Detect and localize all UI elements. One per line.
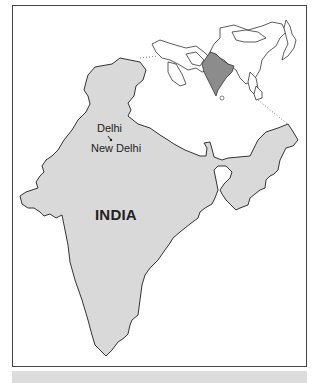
- india-outline: [20, 58, 298, 356]
- label-delhi: Delhi: [97, 122, 122, 134]
- asia-inset: [152, 20, 296, 100]
- label-new-delhi: New Delhi: [91, 142, 141, 154]
- label-country: INDIA: [95, 206, 137, 223]
- inset-connector-right: [258, 100, 290, 126]
- inset-sri-lanka: [220, 96, 224, 100]
- inset-connector-left: [140, 56, 158, 58]
- caption-bar: [12, 371, 307, 383]
- delhi-dot: [110, 139, 112, 141]
